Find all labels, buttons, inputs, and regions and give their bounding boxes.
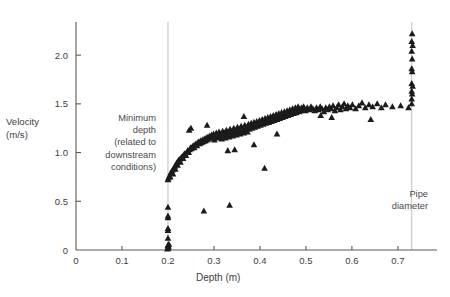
y-axis-title: Velocity (m/s) [6, 116, 68, 141]
x-tick-label-3: 0.3 [207, 255, 220, 266]
data-point [261, 165, 268, 171]
x-tick-label-7: 0.7 [391, 255, 404, 266]
data-point [241, 113, 248, 119]
data-point [165, 204, 172, 210]
data-point [274, 131, 281, 137]
data-point [224, 147, 231, 153]
y-tick-label-1: 0.5 [55, 196, 68, 207]
x-tick-label-0: 0 [73, 255, 78, 266]
data-point [328, 114, 335, 120]
x-tick-label-4: 0.4 [253, 255, 266, 266]
annotation-pipe-diameter: Pipe diameter [360, 188, 428, 212]
y-axis-title-line1: Velocity [6, 116, 68, 129]
y-tick-label-3: 1.5 [55, 98, 68, 109]
data-point [204, 122, 211, 128]
x-tick-label-2: 0.2 [161, 255, 174, 266]
data-point [231, 146, 238, 152]
y-axis-title-line2: (m/s) [6, 129, 68, 142]
data-point [165, 212, 172, 218]
data-point [165, 225, 172, 231]
annotation-minimum-depth-line3: (related to [74, 136, 156, 148]
chart-figure: 00.10.20.30.40.50.60.7 00.51.01.52.0 Vel… [0, 0, 450, 297]
data-point [408, 48, 415, 54]
data-point [367, 116, 374, 122]
annotation-minimum-depth-line4: downstream [74, 149, 156, 161]
data-point [389, 103, 396, 109]
y-tick-label-2: 1.0 [55, 147, 68, 158]
y-tick-label-0: 0 [63, 245, 68, 256]
x-tick-label-1: 0.1 [115, 255, 128, 266]
scatter-plot: 00.10.20.30.40.50.60.7 00.51.01.52.0 [0, 0, 450, 297]
y-tick-label-4: 2.0 [55, 50, 68, 61]
annotation-pipe-diameter-line2: diameter [360, 200, 428, 212]
data-point [166, 241, 173, 247]
x-tick-label-5: 0.5 [299, 255, 312, 266]
x-axis-title: Depth (m) [196, 272, 240, 283]
data-point [397, 102, 404, 108]
data-point [409, 56, 416, 62]
x-tick-label-6: 0.6 [345, 255, 358, 266]
data-markers [164, 30, 416, 251]
annotation-minimum-depth: Minimum depth (related to downstream con… [74, 112, 156, 173]
data-point [374, 100, 381, 106]
data-point [408, 80, 415, 86]
data-point [409, 30, 416, 36]
data-point [165, 235, 172, 241]
x-axis-ticks: 00.10.20.30.40.50.60.7 [73, 246, 404, 266]
data-point [382, 101, 389, 107]
data-point [408, 38, 415, 44]
data-point [201, 208, 208, 214]
data-point [251, 141, 258, 147]
data-point [408, 65, 415, 71]
data-point [359, 99, 366, 105]
annotation-pipe-diameter-line1: Pipe [360, 188, 428, 200]
annotation-minimum-depth-line1: Minimum [74, 112, 156, 124]
data-point [226, 202, 233, 208]
annotation-minimum-depth-line2: depth [74, 124, 156, 136]
annotation-minimum-depth-line5: conditions) [74, 161, 156, 173]
